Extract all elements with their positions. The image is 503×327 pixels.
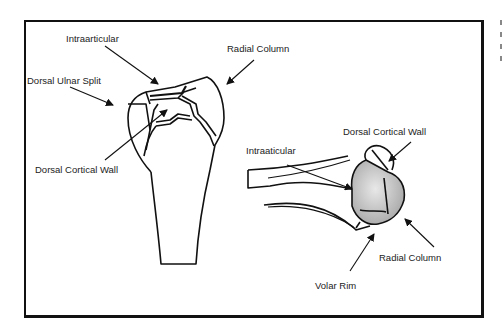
cropped-margin-text bbox=[499, 20, 503, 70]
label-radial-column-right: Radial Column bbox=[379, 253, 441, 263]
label-radial-column-left: Radial Column bbox=[227, 44, 289, 54]
label-intraaticular-right: Intraaticular bbox=[246, 146, 296, 156]
label-dorsal-cortical-wall-left: Dorsal Cortical Wall bbox=[35, 165, 118, 175]
right-radius-lateral-view bbox=[248, 146, 404, 230]
label-volar-rim: Volar Rim bbox=[315, 281, 356, 291]
left-radius-dorsal-view bbox=[128, 77, 224, 264]
label-dorsal-ulnar-split: Dorsal Ulnar Split bbox=[27, 76, 101, 86]
label-dorsal-cortical-wall-right: Dorsal Cortical Wall bbox=[343, 127, 426, 137]
label-intraarticular-left: Intraarticular bbox=[66, 34, 119, 44]
